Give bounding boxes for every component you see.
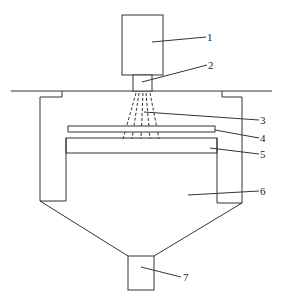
label-4: 4	[260, 132, 266, 144]
funnel-right	[154, 203, 242, 256]
label-2: 2	[208, 59, 214, 71]
component-5-block	[66, 138, 217, 153]
component-1-body	[122, 15, 163, 75]
component-2-nozzle	[133, 75, 152, 91]
label-7: 7	[183, 271, 189, 283]
component-7-outlet	[128, 256, 154, 290]
funnel-left	[40, 201, 128, 256]
label-1: 1	[207, 31, 213, 43]
label-6: 6	[260, 185, 266, 197]
label-5: 5	[260, 148, 266, 160]
label-3: 3	[260, 114, 266, 126]
chamber-left-wall	[40, 91, 66, 201]
chamber-right-wall	[217, 91, 242, 203]
component-4-plate	[68, 126, 215, 132]
diagram-canvas: 1 2 3 4 5 6 7	[0, 0, 282, 303]
